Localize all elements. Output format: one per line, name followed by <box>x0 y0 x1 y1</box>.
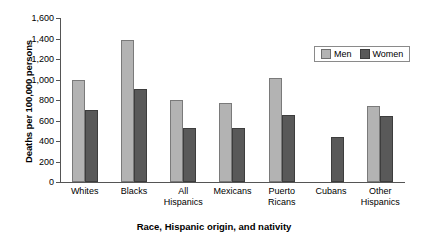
legend-item-men: Men <box>321 49 352 59</box>
bar-women[interactable] <box>232 128 245 182</box>
legend-label-women: Women <box>373 49 404 59</box>
y-axis-tick-label: 1,600 <box>12 13 54 23</box>
x-axis-category-label: OtherHispanics <box>356 186 405 208</box>
legend-swatch-women-icon <box>360 49 370 59</box>
bar-group <box>356 18 405 182</box>
y-axis-tick-label: 0 <box>12 177 54 187</box>
x-axis-category-label: Whites <box>60 186 109 208</box>
x-axis-title: Race, Hispanic origin, and nativity <box>0 221 428 232</box>
x-axis-category-labels: WhitesBlacksAllHispanicsMexicansPuertoRi… <box>60 186 405 208</box>
bar-women[interactable] <box>85 110 98 182</box>
bar-women[interactable] <box>380 116 393 182</box>
x-axis-category-label: Blacks <box>109 186 158 208</box>
bar-group <box>109 18 158 182</box>
bar-men[interactable] <box>219 103 232 182</box>
y-axis-tick-label: 800 <box>12 95 54 105</box>
legend-label-men: Men <box>334 49 352 59</box>
bar-men[interactable] <box>269 78 282 182</box>
bar-women[interactable] <box>331 137 344 182</box>
bar-women[interactable] <box>183 128 196 182</box>
bar-men[interactable] <box>121 40 134 182</box>
legend-item-women: Women <box>360 49 404 59</box>
bar-group <box>159 18 208 182</box>
y-axis-tick <box>56 182 60 183</box>
bar-women[interactable] <box>282 115 295 182</box>
plot-area: 02004006008001,0001,2001,4001,600 <box>60 18 405 182</box>
x-axis-line <box>60 182 405 183</box>
x-axis-category-label: PuertoRicans <box>257 186 306 208</box>
bar-men[interactable] <box>170 100 183 182</box>
bar-group <box>257 18 306 182</box>
bar-group <box>208 18 257 182</box>
x-axis-category-label: Cubans <box>306 186 355 208</box>
bar-chart: Deaths per 100,000 persons 0200400600800… <box>0 0 428 242</box>
bar-men[interactable] <box>367 106 380 182</box>
bar-men[interactable] <box>72 80 85 183</box>
x-axis-category-label: Mexicans <box>208 186 257 208</box>
chart-legend: Men Women <box>314 46 410 62</box>
bar-groups <box>60 18 405 182</box>
y-axis-tick-label: 1,000 <box>12 75 54 85</box>
bar-group <box>306 18 355 182</box>
y-axis-tick-label: 400 <box>12 136 54 146</box>
y-axis-tick-label: 600 <box>12 116 54 126</box>
legend-swatch-men-icon <box>321 49 331 59</box>
y-axis-tick-label: 1,200 <box>12 54 54 64</box>
bar-group <box>60 18 109 182</box>
x-axis-category-label: AllHispanics <box>159 186 208 208</box>
y-axis-tick-label: 200 <box>12 157 54 167</box>
bar-women[interactable] <box>134 89 147 182</box>
y-axis-tick-label: 1,400 <box>12 34 54 44</box>
